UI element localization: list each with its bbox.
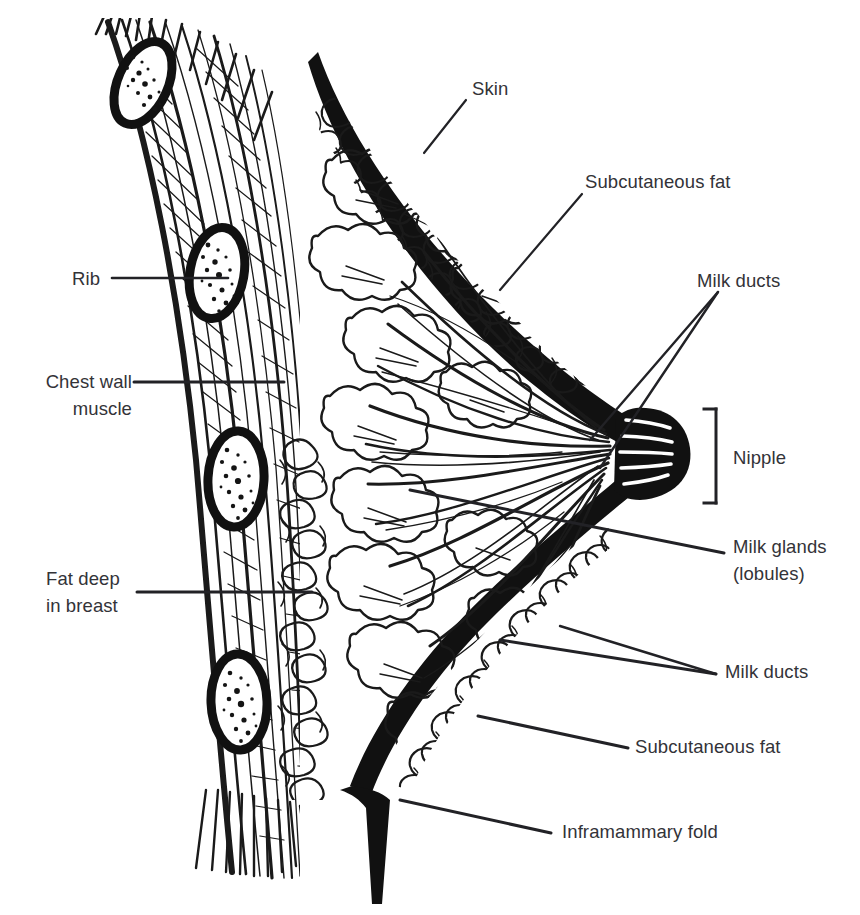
label-inframammary-fold: Inframammary fold: [562, 818, 718, 845]
label-milk-ducts-top: Milk ducts: [697, 267, 780, 294]
label-milk-glands-lobules: Milk glands (lobules): [733, 533, 827, 587]
nipple-bracket: [704, 409, 716, 503]
chest-wall-group: [96, 10, 328, 878]
leader-milkducts-bottom-b: [560, 626, 716, 674]
label-milk-ducts-bottom: Milk ducts: [725, 658, 808, 685]
label-skin: Skin: [472, 75, 508, 102]
inframammary-fold-shape: [340, 786, 390, 904]
leader-subq-top: [500, 194, 582, 290]
skin-contour-upper: [308, 52, 652, 452]
label-fat-deep-in-breast: Fat deep in breast: [46, 565, 120, 619]
leader-milkducts-bottom-a: [500, 640, 716, 674]
label-subcutaneous-fat-bottom: Subcutaneous fat: [635, 733, 781, 760]
label-chest-wall-muscle: Chest wall muscle: [0, 368, 132, 422]
breast-anatomy-figure: Skin Subcutaneous fat Milk ducts Rib Che…: [0, 0, 860, 915]
anatomy-illustration: [0, 0, 860, 915]
label-subcutaneous-fat-top: Subcutaneous fat: [585, 168, 731, 195]
label-rib: Rib: [72, 265, 100, 292]
leader-skin: [424, 100, 466, 153]
leader-inframammary: [400, 800, 551, 833]
leader-subq-bottom: [478, 716, 628, 748]
rib-2: [182, 223, 251, 323]
rib-4: [209, 653, 268, 751]
lobules-and-ducts: [309, 148, 610, 766]
rib-3: [206, 430, 267, 529]
label-nipple: Nipple: [733, 444, 786, 471]
